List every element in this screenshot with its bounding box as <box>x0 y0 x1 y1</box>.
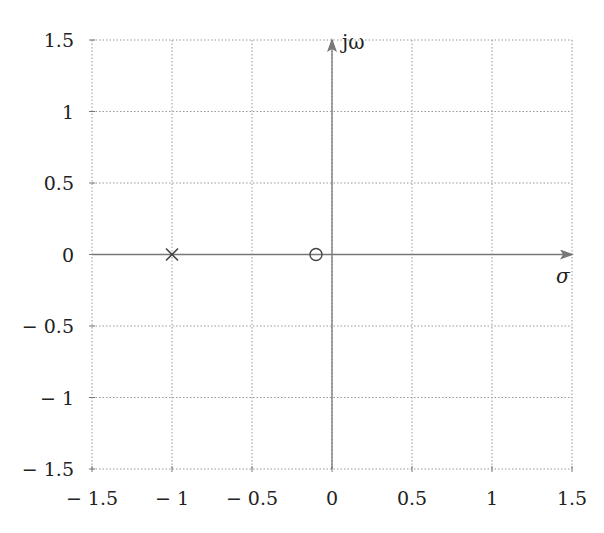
y-tick-label: 0.5 <box>44 172 74 194</box>
tick-labels: − 1.5− 1− 0.500.511.5− 1.5− 1− 0.500.511… <box>22 29 587 509</box>
x-tick-label: 0.5 <box>397 487 427 509</box>
x-tick-label: 0 <box>326 487 338 509</box>
y-tick-label: − 1 <box>40 387 74 409</box>
pole-zero-plot: − 1.5− 1− 0.500.511.5− 1.5− 1− 0.500.511… <box>0 0 604 533</box>
y-axis-label: jω <box>340 30 365 54</box>
x-tick-label: − 1 <box>155 487 189 509</box>
y-tick-label: − 1.5 <box>22 458 74 480</box>
y-tick-label: 1.5 <box>44 29 74 51</box>
x-tick-label: − 1.5 <box>66 487 118 509</box>
x-tick-label: 1.5 <box>557 487 587 509</box>
x-axis-label: σ <box>556 264 571 288</box>
y-tick-label: − 0.5 <box>22 315 74 337</box>
x-tick-label: − 0.5 <box>226 487 278 509</box>
y-tick-label: 1 <box>62 101 74 123</box>
x-tick-label: 1 <box>486 487 498 509</box>
y-tick-label: 0 <box>62 244 74 266</box>
axes <box>89 40 572 472</box>
